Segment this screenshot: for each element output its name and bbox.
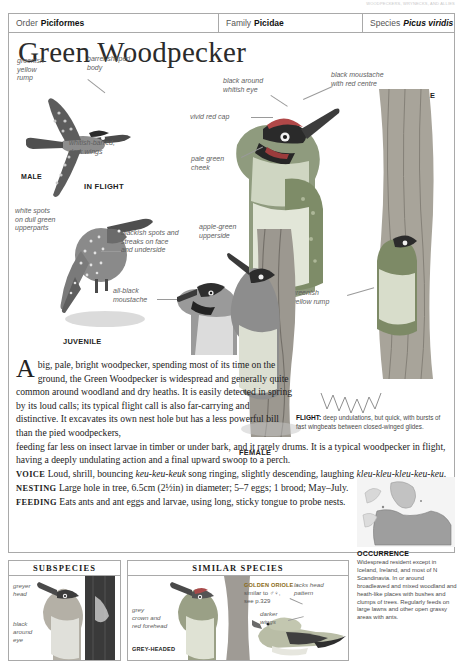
golden-oriole-annotation-darker-wings: darker wings bbox=[260, 610, 278, 626]
leader-line-all-black-moustache bbox=[157, 299, 179, 300]
annotation-blackish-spots: blackish spots and streaks on face and u… bbox=[121, 229, 207, 255]
taxonomy-header: Order Piciformes Family Picidae Species … bbox=[8, 13, 455, 33]
label-in-flight: IN FLIGHT bbox=[84, 182, 124, 191]
leader-line-blackish-spots bbox=[101, 251, 121, 252]
annotation-white-spots: white spots on dull green upperparts bbox=[15, 207, 81, 233]
voice-heading: VOICE bbox=[16, 470, 45, 479]
taxonomy-species: Species Picus viridis bbox=[363, 14, 454, 32]
similar-species-panel-body: grey crown and red forehead GREY-HEADED … bbox=[128, 576, 348, 660]
nesting-text: Large hole in tree, 6.5cm (2½in) in diam… bbox=[57, 482, 349, 493]
occurrence-text: Widespread resident except in Iceland, I… bbox=[357, 559, 457, 622]
subspecies-annotation-black-around-eye: black around eye bbox=[13, 620, 32, 643]
species-label: Species bbox=[370, 18, 400, 28]
taxonomy-order: Order Piciformes bbox=[9, 14, 219, 32]
annotation-pale-green-cheek: pale green cheek bbox=[191, 155, 247, 172]
grey-headed-woodpecker-illustration bbox=[170, 582, 226, 660]
subspecies-trunk-illustration bbox=[81, 576, 120, 660]
golden-oriole-note: similar to ♂♀, see p.329 bbox=[244, 590, 280, 605]
voice-text-a: Loud, shrill, bouncing bbox=[45, 468, 135, 479]
voice-call-1: keu-keu-keuk bbox=[135, 468, 186, 479]
running-head: WOODPECKERS, WRYNECKS, AND ALLIES bbox=[366, 1, 455, 6]
subspecies-heading: SUBSPECIES bbox=[9, 561, 120, 576]
occurrence-section: OCCURRENCE Widespread resident except in… bbox=[357, 550, 457, 622]
taxonomy-family: Family Picidae bbox=[219, 14, 363, 32]
grey-headed-trunk-illustration bbox=[220, 576, 254, 660]
family-value: Picidae bbox=[254, 18, 284, 28]
label-juvenile: JUVENILE bbox=[63, 337, 102, 346]
subspecies-panel-body: greyer head black around eye bbox=[9, 576, 120, 660]
account-intro-paragraph: Abig, pale, bright woodpecker, spending … bbox=[16, 358, 294, 440]
annotation-black-moustache-red-centre: black moustache with red centre bbox=[331, 71, 407, 88]
account-intro-text: big, pale, bright woodpecker, spending m… bbox=[16, 359, 292, 438]
subspecies-annotation-greyer-head: greyer head bbox=[13, 582, 31, 598]
distribution-map bbox=[357, 477, 455, 547]
subspecies-panel: SUBSPECIES greyer head black around eye bbox=[8, 560, 121, 661]
annotation-vivid-red-cap: vivid red cap bbox=[190, 113, 252, 122]
annotation-greenish-yellow-rump-flight: greenish yellow rump bbox=[17, 57, 63, 83]
field-guide-page: WOODPECKERS, WRYNECKS, AND ALLIES Order … bbox=[0, 0, 463, 661]
golden-oriole-annotation-lacks-head-pattern: lacks head pattern bbox=[294, 581, 324, 597]
drop-cap: A bbox=[16, 358, 38, 379]
annotation-barrel-shaped-body: barrel-shaped body bbox=[87, 55, 149, 72]
tree-trunk-right-illustration bbox=[359, 89, 455, 379]
nesting-heading: NESTING bbox=[16, 484, 57, 493]
leader-line-barrel-body bbox=[87, 79, 105, 93]
annotation-all-black-moustache: all-black moustache bbox=[113, 287, 169, 304]
species-value: Picus viridis bbox=[403, 18, 453, 28]
family-label: Family bbox=[226, 18, 251, 28]
annotation-black-around-whitish-eye: black around whitish eye bbox=[223, 77, 289, 94]
occurrence-heading: OCCURRENCE bbox=[357, 550, 457, 557]
leader-line-vivid-red-cap bbox=[251, 117, 273, 118]
account-continued-paragraph: feeding far less on insect larvae in tim… bbox=[16, 440, 450, 467]
grey-headed-species-name: GREY-HEADED bbox=[132, 646, 175, 652]
annotation-whitish-barred-wings: whitish-barred, dark wings bbox=[69, 139, 139, 156]
label-male-in-flight: MALE bbox=[21, 173, 42, 180]
grey-headed-annotation-grey-crown: grey crown and red forehead bbox=[132, 606, 167, 629]
golden-oriole-species-name: GOLDEN ORIOLE ♀ bbox=[244, 582, 300, 588]
similar-species-heading: SIMILAR SPECIES bbox=[128, 561, 348, 576]
similar-species-panel: SIMILAR SPECIES grey crown and red foreh… bbox=[127, 560, 349, 661]
order-label: Order bbox=[16, 18, 38, 28]
feeding-heading: FEEDING bbox=[16, 498, 57, 507]
order-value: Piciformes bbox=[41, 18, 84, 28]
feeding-text: Eats ants and ant eggs and larvae, using… bbox=[57, 496, 346, 507]
voice-text-b: song ringing, slightly descending, laugh… bbox=[186, 468, 357, 479]
